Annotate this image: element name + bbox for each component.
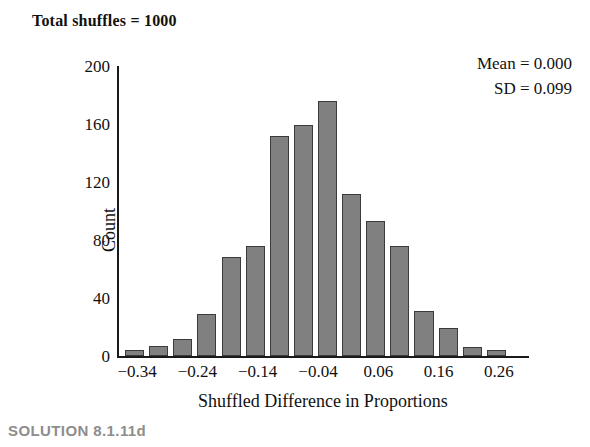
- x-tick-label: 0.06: [363, 362, 393, 382]
- histogram-bar: [246, 246, 265, 356]
- histogram-bar: [125, 350, 144, 356]
- bars-container: [119, 66, 529, 356]
- histogram-bar: [487, 350, 506, 356]
- y-tick-label: 200: [58, 57, 110, 77]
- figure-caption: SOLUTION 8.1.11d: [8, 422, 146, 439]
- y-tick-label: 120: [58, 173, 110, 193]
- x-tick-label: 0.16: [424, 362, 454, 382]
- histogram-bar: [222, 257, 241, 356]
- histogram-bar: [390, 246, 409, 356]
- histogram-bar: [197, 314, 216, 356]
- histogram-bar: [414, 311, 433, 356]
- histogram-bar: [342, 194, 361, 356]
- x-tick-label: −0.04: [298, 362, 337, 382]
- x-axis-title: Shuffled Difference in Proportions: [117, 391, 529, 412]
- x-tick-label: −0.24: [178, 362, 217, 382]
- y-tick-label: 0: [58, 347, 110, 367]
- x-tick-label: −0.14: [238, 362, 277, 382]
- histogram-bar: [463, 347, 482, 356]
- histogram-bar: [439, 328, 458, 356]
- histogram-bar: [270, 136, 289, 356]
- histogram-bar: [294, 125, 313, 356]
- y-axis-title: Count: [99, 208, 120, 252]
- x-tick-label: −0.34: [117, 362, 156, 382]
- plot-area: Count −0.34−0.24−0.14−0.040.060.160.26 S…: [117, 66, 529, 358]
- histogram-bar: [173, 339, 192, 356]
- histogram-bar: [366, 221, 385, 356]
- x-axis-tick-labels: −0.34−0.24−0.14−0.040.060.160.26: [117, 362, 529, 386]
- y-tick-label: 40: [58, 289, 110, 309]
- histogram-bar: [318, 101, 337, 356]
- histogram-figure: Total shuffles = 1000 Mean = 0.000 SD = …: [0, 0, 590, 447]
- y-tick-label: 160: [58, 115, 110, 135]
- x-tick-label: 0.26: [484, 362, 514, 382]
- histogram-bar: [149, 346, 168, 356]
